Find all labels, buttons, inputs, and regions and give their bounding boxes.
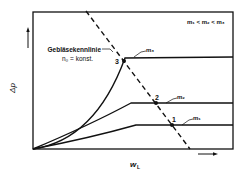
leader-m3 xyxy=(134,51,146,57)
curve-label-m3: m₃ xyxy=(146,47,154,53)
point-label-2: 2 xyxy=(155,94,159,101)
x-axis-arrow-icon xyxy=(198,152,218,155)
leader-m1 xyxy=(182,119,193,125)
intersection-point-2 xyxy=(154,101,158,105)
fan-curve-dashed-line xyxy=(86,11,190,149)
curve-label-m1: m₁ xyxy=(193,115,201,121)
y-axis-arrow-icon xyxy=(26,27,29,48)
plot-frame xyxy=(33,12,233,149)
x-axis-label: w xyxy=(130,160,137,169)
point-label-3: 3 xyxy=(115,58,119,65)
intersection-point-1 xyxy=(170,123,174,127)
diagram-canvas: m₁ < m₂ < m₃ Gebläsekennlinie n₀ = konst… xyxy=(0,0,247,178)
fan-curve-label: Gebläsekennlinie xyxy=(48,46,102,53)
fan-curve-speed-label: n₀ = konst. xyxy=(62,55,93,62)
condition-label: m₁ < m₂ < m₃ xyxy=(187,19,225,25)
leader-m2 xyxy=(166,98,177,103)
y-axis-label: Δp xyxy=(8,83,17,94)
intersection-point-3 xyxy=(122,59,126,63)
curve-m1 xyxy=(33,125,233,149)
curve-label-m2: m₂ xyxy=(177,94,185,100)
leader-fan-curve xyxy=(102,49,113,52)
point-label-1: 1 xyxy=(172,116,176,123)
x-axis-label-subscript: L xyxy=(137,164,140,170)
